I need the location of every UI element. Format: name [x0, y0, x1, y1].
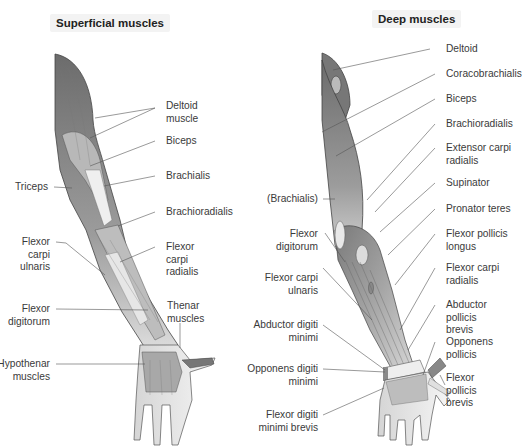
label-hypothenar-muscles: Hypothenar muscles [0, 358, 50, 383]
label-biceps-deep: Biceps [446, 93, 477, 106]
label-flexor-carpi-radialis-deep: Flexor carpi radialis [446, 262, 499, 287]
deep-arm-drawing [322, 53, 450, 445]
label-biceps: Biceps [166, 135, 197, 148]
label-pronator-teres: Pronator teres [446, 203, 511, 216]
label-flexor-carpi-radialis: Flexor carpi radialis [166, 241, 198, 279]
label-brachialis: Brachialis [166, 170, 210, 183]
label-flexor-digitorum: Flexor digitorum [8, 303, 50, 328]
label-supinator: Supinator [446, 177, 490, 190]
label-flexor-carpi-ulnaris-deep: Flexor carpi ulnaris [265, 272, 318, 297]
label-flexor-pollicis-longus: Flexor pollicis longus [446, 228, 508, 253]
label-opponens-pollicis: Opponens pollicis [446, 336, 493, 361]
label-extensor-carpi-radialis: Extensor carpi radialis [446, 142, 511, 167]
label-abductor-digiti-minimi: Abductor digiti minimi [253, 319, 318, 344]
label-abductor-pollicis-brevis: Abductor pollicis brevis [446, 299, 520, 337]
label-coracobrachialis: Coracobrachialis [446, 68, 522, 81]
label-brachialis-deep: (Brachialis) [267, 193, 318, 206]
label-thenar-muscles: Thenar muscles [167, 300, 204, 325]
label-deltoid-muscle: Deltoid muscle [166, 100, 198, 125]
label-opponens-digiti-minimi: Opponens digiti minimi [247, 363, 318, 388]
deep-muscles-title: Deep muscles [372, 10, 461, 28]
label-brachioradialis-deep: Brachioradialis [446, 118, 513, 131]
label-flexor-digiti-minimi-brevis: Flexor digiti minimi brevis [259, 409, 318, 434]
label-deltoid: Deltoid [446, 43, 478, 56]
label-flexor-pollicis-brevis: Flexor pollicis brevis [446, 372, 477, 410]
label-flexor-carpi-ulnaris: Flexor carpi ulnaris [20, 236, 50, 274]
label-triceps: Triceps [15, 181, 48, 194]
label-flexor-digitorum-deep: Flexor digitorum [276, 228, 318, 253]
superficial-muscles-title: Superficial muscles [50, 14, 170, 32]
label-brachioradialis: Brachioradialis [166, 206, 233, 219]
